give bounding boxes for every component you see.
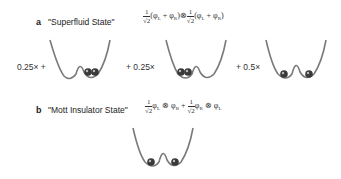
particle-icon (84, 68, 92, 76)
superfluid-formula: 1√2(φL + φR)⊗1√2(φL + φR) (143, 8, 224, 25)
panel-b-letter: b (36, 105, 42, 115)
double-well-both-right (48, 38, 112, 84)
panel-b-title: "Mott Insulator State" (48, 105, 128, 115)
panel-a-title: "Superfluid State" (48, 17, 115, 27)
double-well-mott (131, 126, 195, 172)
particle-icon (280, 70, 288, 78)
particle-icon (171, 158, 179, 166)
coefficient-1: 0.25× + (17, 62, 46, 72)
coefficient-3: + 0.5× (236, 62, 260, 72)
particle-icon (147, 158, 155, 166)
mott-formula: 1√2φL ⊗ φR + 1√2φR ⊗ φL (145, 98, 222, 115)
panel-a-letter: a (36, 17, 41, 27)
particle-icon (305, 70, 313, 78)
particle-icon (184, 68, 192, 76)
particle-icon (177, 68, 185, 76)
particle-icon (91, 68, 99, 76)
double-well-both-left (164, 38, 228, 84)
double-well-one-each (264, 38, 328, 84)
coefficient-2: + 0.25× (126, 62, 155, 72)
